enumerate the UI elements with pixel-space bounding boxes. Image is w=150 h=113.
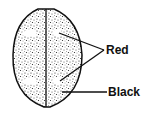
label-red: Red — [106, 44, 129, 56]
label-black: Black — [108, 86, 140, 98]
